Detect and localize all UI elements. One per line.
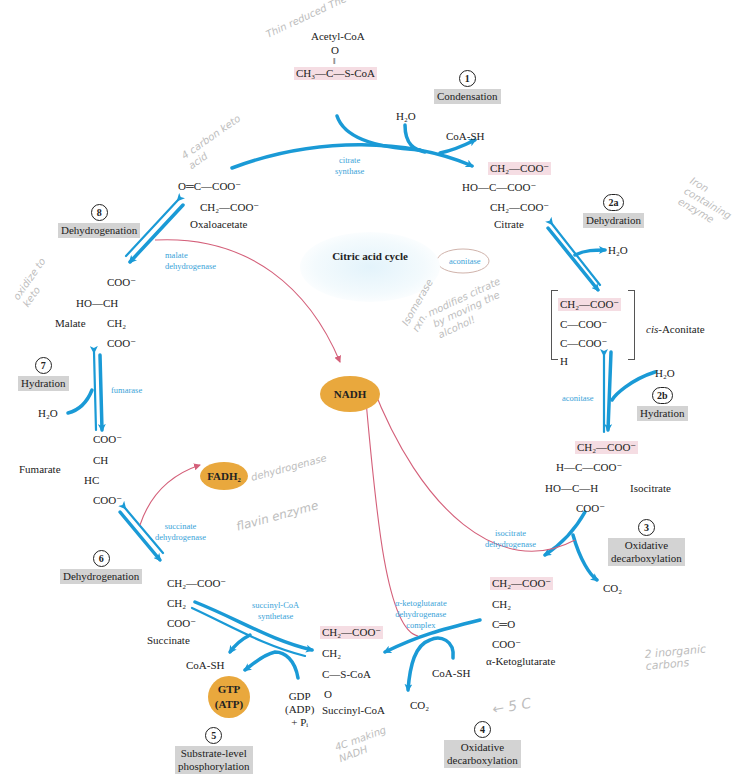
malate-line1: COO⁻ [107,276,136,289]
electron-path-succinate [140,465,200,525]
step-4: 4 Oxidative decarboxylation [444,719,521,768]
succinate-line1: CH₂—COO⁻ [167,577,226,590]
fumarate-name: Fumarate [19,463,61,476]
isocitrate-line1: CH₂—COO⁻ [575,441,638,454]
step-1: 1 Condensation [434,68,501,104]
step-1-label: Condensation [434,89,501,104]
succinyl-coa-name: Succinyl-CoA [322,704,385,717]
enzyme-malate-dehydrogenase: malate dehydrogenase [165,250,216,272]
step-2a: 2a Dehydration [583,192,644,228]
akg-line2: CH₂ [492,598,511,611]
step-6-number: 6 [93,550,110,567]
cis-aconitate-line3: C—COO⁻ [560,337,607,350]
fumarate-line2: CH [93,454,108,467]
succinyl-coa-line1: CH₂—COO⁻ [320,626,383,639]
akg-line1: CH₂—COO⁻ [490,577,553,590]
h2o-step2a: H₂O [608,244,628,257]
acetyl-coa-formula: CH₃—C—S-CoA [294,67,377,80]
arrow-coash-4-in [408,638,453,690]
oxaloacetate-name: Oxaloacetate [190,218,247,231]
nadh-badge: NADH [320,376,380,412]
coash-step4: CoA-SH [432,667,471,680]
step-4-number: 4 [474,721,491,738]
step-5-number: 5 [205,727,222,744]
enzyme-aconitase-2: aconitase [562,393,594,404]
acetyl-coa-label: Acetyl-CoA [311,30,365,43]
cycle-title: Citric acid cycle [300,250,440,263]
h2o-step1: H₂O [396,110,416,123]
cis-aconitate-line4: H [560,355,568,368]
akg-name: α-Ketoglutarate [486,655,555,668]
step-6: 6 Dehydrogenation [60,548,142,584]
succinate-name: Succinate [147,634,190,647]
step-6-label: Dehydrogenation [60,569,142,584]
isocitrate-line3: HO—C—H [545,482,598,495]
enzyme-akg-dehydrogenase: α-ketoglutarate dehydrogenase complex [395,598,447,631]
cis-aconitate-line2: C—COO⁻ [560,318,607,331]
fumarate-line3: HC [84,474,99,487]
step-4-label: Oxidative decarboxylation [444,740,521,768]
step-2b: 2b Hydration [637,385,688,421]
enzyme-citrate-synthase: citrate synthase [335,155,364,177]
step-2b-label: Hydration [637,406,688,421]
step-8-label: Dehydrogenation [58,223,140,238]
co2-step4: CO₂ [410,699,429,712]
coash-step5: CoA-SH [186,659,225,672]
isocitrate-line4: COO⁻ [576,502,605,515]
step-7-number: 7 [35,357,52,374]
gtp-atp-badge: GTP (ATP) [208,676,250,718]
citrate-line2: HO—C—COO⁻ [462,181,536,194]
isocitrate-name: Isocitrate [630,482,671,495]
arrow-co2-3-out [573,535,597,580]
step-8-number: 8 [91,204,108,221]
citrate-line3: CH₂—COO⁻ [490,201,549,214]
isocitrate-line2: H—C—COO⁻ [556,461,622,474]
step-2a-number: 2a [603,194,624,211]
arrow-h2o-2a-out [575,250,605,255]
fumarate-line1: COO⁻ [93,433,122,446]
arrow-step2b [608,352,611,430]
h2o-step7: H₂O [38,407,58,420]
fadh2-badge: FADH₂ [200,462,248,490]
step-7: 7 Hydration [18,355,69,391]
oxaloacetate-line2: CH₂—COO⁻ [200,201,259,214]
arrow-coash-5-out [230,635,250,652]
enzyme-fumarase: fumarase [111,385,142,396]
enzyme-succinyl-coa-synthetase: succinyl-CoA synthetase [252,600,299,622]
step-2a-label: Dehydration [583,213,644,228]
akg-line4: COO⁻ [492,638,521,651]
enzyme-isocitrate-dehydrogenase: isocitrate dehydrogenase [485,528,536,550]
electron-path-isocitrate [372,385,575,551]
bracket-left [551,290,558,360]
citrate-line1: CH₂—COO⁻ [488,162,551,175]
step-3-number: 3 [638,519,655,536]
coash-step1: CoA-SH [446,130,485,143]
citrate-name: Citrate [494,218,524,231]
succinyl-coa-line4: O [324,688,332,701]
bracket-right [628,290,635,360]
step-1-number: 1 [459,70,476,87]
succinyl-coa-line3: C—S-CoA [322,668,371,681]
cis-aconitate-name: cis-Aconitate [646,323,705,336]
step-5-label: Substrate-level phosphorylation [175,746,253,774]
cis-aconitate-line1: CH₂—COO⁻ [558,298,621,311]
malate-line3: CH₂ [107,317,126,330]
enzyme-aconitase-1: aconitase [449,256,481,267]
h2o-step2b: H₂O [655,367,675,380]
malate-line2: HO—CH [76,297,118,310]
cycle-title-text: Citric acid cycle [332,250,408,262]
arrow-h2o-7-in [68,390,92,413]
gdp-adp-pi: GDP (ADP) + Pᵢ [285,690,314,729]
malate-name: Malate [55,317,86,330]
co2-step3: CO₂ [603,582,622,595]
succinate-line3: COO⁻ [167,617,196,630]
step-2b-number: 2b [652,387,673,404]
enzyme-succinate-dehydrogenase: succinate dehydrogenase [155,521,206,543]
cis-prefix: cis [646,323,658,335]
oxaloacetate-line1: O═C—COO⁻ [178,180,241,193]
arrow-step7 [100,355,102,430]
arrow-step2a [548,228,598,290]
step-3: 3 Oxidative decarboxylation [608,517,685,566]
step-8: 8 Dehydrogenation [58,202,140,238]
malate-line4: COO⁻ [107,337,136,350]
